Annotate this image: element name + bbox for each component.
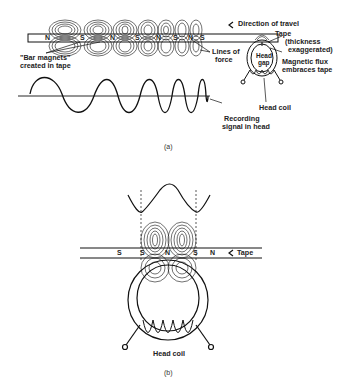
pole-a-5: S bbox=[173, 34, 178, 41]
pole-b-2: N bbox=[165, 249, 170, 256]
magnetic-flux-label-2: embraces tape bbox=[282, 66, 332, 74]
caption-b: (b) bbox=[164, 369, 173, 376]
readback-wave bbox=[128, 184, 210, 212]
tape-b bbox=[80, 248, 262, 258]
pole-a-0: N bbox=[45, 34, 50, 41]
recording-signal-label-2: signal in head bbox=[222, 123, 270, 131]
pole-a-3: S bbox=[135, 34, 140, 41]
lines-of-force-label-2: force bbox=[215, 56, 233, 64]
pole-a-1: S bbox=[80, 34, 85, 41]
recording-signal-wave bbox=[18, 78, 210, 113]
head-gap-label-2: gap bbox=[258, 59, 270, 67]
pole-a-2: N bbox=[110, 34, 115, 41]
pole-a-7: S bbox=[200, 34, 205, 41]
pole-b-3: S bbox=[193, 249, 198, 256]
pole-b-1: S bbox=[140, 249, 145, 256]
pole-a-6: N bbox=[188, 34, 193, 41]
leader-lines-a bbox=[46, 36, 282, 103]
arrow-left-icon bbox=[229, 22, 233, 28]
pole-b-4: N bbox=[210, 249, 215, 256]
pole-a-4: N bbox=[156, 34, 161, 41]
head-coil-label-b: Head coil bbox=[153, 350, 185, 358]
pole-b-0: S bbox=[117, 249, 122, 256]
arrow-left-icon-b bbox=[229, 250, 233, 256]
caption-a: (a) bbox=[164, 143, 173, 150]
tape-label-b: Tape bbox=[237, 249, 253, 257]
direction-of-travel-label: Direction of travel bbox=[238, 20, 299, 28]
head-coil-label-a: Head coil bbox=[259, 104, 291, 112]
thickness-label-2: exaggerated) bbox=[288, 46, 333, 54]
bar-magnets-label-2: created in tape bbox=[20, 62, 71, 70]
